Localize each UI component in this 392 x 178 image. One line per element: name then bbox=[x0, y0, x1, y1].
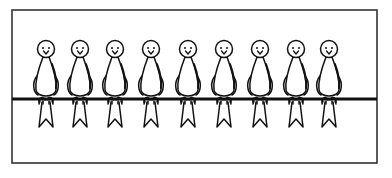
bird-head bbox=[252, 41, 269, 58]
bird-tail bbox=[217, 102, 231, 127]
bird-right-eye bbox=[298, 47, 300, 49]
bird-body bbox=[250, 57, 270, 96]
bird-right-eye bbox=[117, 47, 119, 49]
bird-body bbox=[105, 57, 125, 96]
birds-on-wire-illustration bbox=[0, 0, 392, 178]
bird-left-eye bbox=[76, 47, 78, 49]
bird bbox=[139, 41, 164, 128]
bird-left-eye bbox=[111, 47, 113, 49]
bird-head bbox=[216, 41, 233, 58]
bird-body bbox=[286, 57, 306, 96]
bird-left-eye bbox=[42, 47, 44, 49]
bird-head bbox=[72, 41, 89, 58]
bird-right-eye bbox=[262, 47, 264, 49]
bird-tail bbox=[289, 102, 303, 127]
bird-left-eye bbox=[325, 47, 327, 49]
bird bbox=[248, 41, 273, 128]
bird-tail bbox=[181, 102, 195, 127]
bird-tail bbox=[253, 102, 267, 127]
bird-head bbox=[143, 41, 160, 58]
bird-right-eye bbox=[190, 47, 192, 49]
bird-right-eye bbox=[153, 47, 155, 49]
bird-right-eye bbox=[331, 47, 333, 49]
bird-head bbox=[288, 41, 305, 58]
bird-body bbox=[214, 57, 234, 96]
bird-tail bbox=[108, 102, 122, 127]
bird-head bbox=[107, 41, 124, 58]
bird-head bbox=[38, 41, 55, 58]
bird-row bbox=[34, 41, 342, 128]
bird-body bbox=[141, 57, 161, 96]
bird bbox=[34, 41, 59, 128]
bird-left-eye bbox=[292, 47, 294, 49]
bird bbox=[212, 41, 237, 128]
bird bbox=[284, 41, 309, 128]
bird-right-eye bbox=[82, 47, 84, 49]
bird-left-eye bbox=[220, 47, 222, 49]
bird-left-eye bbox=[147, 47, 149, 49]
bird-right-eye bbox=[48, 47, 50, 49]
bird-tail bbox=[322, 102, 336, 127]
bird bbox=[176, 41, 201, 128]
bird bbox=[317, 41, 342, 128]
bird-body bbox=[178, 57, 198, 96]
bird-head bbox=[321, 41, 338, 58]
bird-tail bbox=[73, 102, 87, 127]
bird-left-eye bbox=[256, 47, 258, 49]
bird bbox=[103, 41, 128, 128]
bird-left-eye bbox=[184, 47, 186, 49]
bird bbox=[68, 41, 93, 128]
bird-right-eye bbox=[226, 47, 228, 49]
bird-head bbox=[180, 41, 197, 58]
bird-body bbox=[319, 57, 339, 96]
bird-tail bbox=[39, 102, 53, 127]
bird-tail bbox=[144, 102, 158, 127]
bird-body bbox=[70, 57, 90, 96]
bird-body bbox=[36, 57, 56, 96]
